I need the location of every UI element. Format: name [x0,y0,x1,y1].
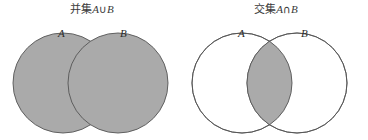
intersection-label-a: A [238,27,245,39]
venn-intersection-graphic [184,0,368,140]
intersection-label-b: B [301,27,308,39]
union-label-b: B [120,27,127,39]
venn-union-graphic [0,0,184,140]
union-label-a: A [58,27,65,39]
panel-intersection: 交集A∩B A B [184,0,368,140]
venn-diagram-figure: 并集A∪B A B 交集A∩B A B [0,0,368,140]
union-circle-b [68,33,168,133]
panel-union: 并集A∪B A B [0,0,184,140]
